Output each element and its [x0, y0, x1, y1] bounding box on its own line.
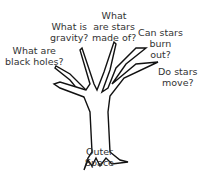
- label-line: What is: [50, 21, 88, 32]
- branch-label-black-holes: What are black holes?: [5, 45, 64, 67]
- label-line: are stars: [92, 21, 136, 32]
- label-line: Outer: [85, 146, 114, 157]
- branch-label-burn-out: Can stars burn out?: [138, 27, 183, 60]
- branch-label-stars-made-of: What are stars made of?: [92, 10, 136, 43]
- branch-label-stars-move: Do stars move?: [158, 66, 198, 88]
- question-tree-diagram: What are black holes? What is gravity? W…: [0, 0, 200, 194]
- label-line: out?: [138, 49, 183, 60]
- label-line: gravity?: [50, 32, 88, 43]
- label-line: What: [92, 10, 136, 21]
- label-line: Can stars: [138, 27, 183, 38]
- trunk-label-outer-space: Outer Space: [85, 146, 114, 168]
- label-line: What are: [5, 45, 64, 56]
- label-line: made of?: [92, 32, 136, 43]
- label-line: burn: [138, 38, 183, 49]
- label-line: black holes?: [5, 56, 64, 67]
- branch-label-gravity: What is gravity?: [50, 21, 88, 43]
- label-line: Do stars: [158, 66, 198, 77]
- label-line: Space: [85, 157, 114, 168]
- label-line: move?: [158, 77, 198, 88]
